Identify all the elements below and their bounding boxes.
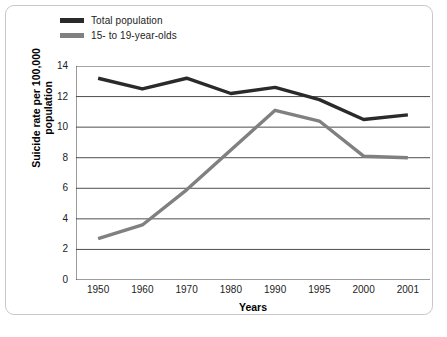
y-axis-tick-label: 6 <box>28 182 68 193</box>
x-axis-title: Years <box>76 301 430 313</box>
chart-figure: Total population 15- to 19-year-olds Sui… <box>0 0 447 337</box>
axis-lines <box>76 66 430 280</box>
data-series-group <box>98 78 408 239</box>
legend-swatch-teens <box>60 33 84 38</box>
legend-label-total-population: Total population <box>91 15 163 26</box>
series-line-teens <box>98 110 408 238</box>
legend-swatch-total-population <box>60 18 84 23</box>
x-axis-tick-label: 1950 <box>87 284 109 295</box>
x-axis-tick-labels: 19501960197019801990199520002001 <box>76 284 430 298</box>
plot-area <box>76 66 430 280</box>
y-axis-tick-label: 8 <box>28 152 68 163</box>
chart-plot-svg <box>76 66 430 280</box>
y-axis-tick-label: 12 <box>28 91 68 102</box>
x-axis-tick-label: 1995 <box>308 284 330 295</box>
y-axis-tick-label: 2 <box>28 243 68 254</box>
x-axis-tick-label: 2001 <box>397 284 419 295</box>
y-axis-tick-label: 14 <box>28 60 68 71</box>
y-axis-tick-labels: 02468101214 <box>28 66 68 280</box>
y-axis-tick-label: 4 <box>28 213 68 224</box>
chart-legend: Total population 15- to 19-year-olds <box>60 14 260 44</box>
legend-item-teens: 15- to 19-year-olds <box>60 29 260 42</box>
x-axis-tick-label: 1960 <box>131 284 153 295</box>
x-axis-tick-label: 1980 <box>220 284 242 295</box>
x-axis-tick-label: 1970 <box>176 284 198 295</box>
x-axis-tick-label: 2000 <box>353 284 375 295</box>
y-axis-tick-label: 0 <box>28 274 68 285</box>
y-axis-tick-label: 10 <box>28 121 68 132</box>
legend-item-total-population: Total population <box>60 14 260 27</box>
legend-label-teens: 15- to 19-year-olds <box>91 30 177 41</box>
x-axis-tick-label: 1990 <box>264 284 286 295</box>
series-line-total-population <box>98 78 408 119</box>
